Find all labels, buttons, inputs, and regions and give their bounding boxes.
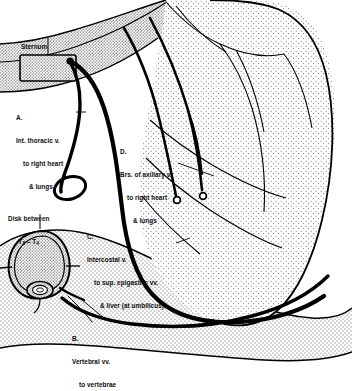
label-a-int-thoracic-vein: A. Int. thoracic v. to right heart & lun… — [16, 99, 63, 205]
label-c-intercostal-vein: C. Intercostal v. to sup. epigastric vv.… — [87, 218, 164, 324]
label-c-line3: & liver (at umbilicus) — [87, 302, 164, 310]
label-b-vertebral-veins: B. Vertebral vv. to vertebrae — [72, 320, 116, 391]
label-sternum-text: Sternum — [21, 43, 47, 51]
label-c-key: C. — [87, 233, 164, 241]
label-b-line1: Vertebral vv. — [72, 358, 116, 366]
label-b-line2: to vertebrae — [72, 381, 116, 389]
label-a-key: A. — [16, 114, 63, 122]
label-disk: Disk between T3 – T4 — [8, 200, 49, 262]
label-b-key: B. — [72, 335, 116, 343]
label-a-line3: & lungs — [16, 183, 63, 191]
label-d-line2: to right heart — [120, 194, 172, 202]
label-d-key: D. — [120, 148, 172, 156]
label-c-line2: to sup. epigastric vv. — [87, 279, 164, 287]
label-disk-vertebrae: T3 – T4 — [8, 238, 49, 247]
label-disk-line1: Disk between — [8, 215, 49, 223]
label-sternum: Sternum — [21, 28, 47, 66]
label-c-line1: Intercostal v. — [87, 256, 164, 264]
label-d-line1: Brs. of axillary v. — [120, 171, 172, 179]
label-a-line1: Int. thoracic v. — [16, 137, 63, 145]
spinal-canal — [27, 282, 53, 299]
label-a-line2: to right heart — [16, 160, 63, 168]
